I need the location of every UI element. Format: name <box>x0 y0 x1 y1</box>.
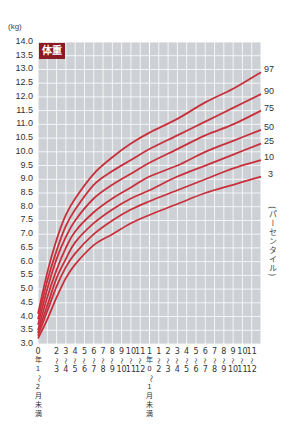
y-tick-label: 8.0 <box>5 201 33 211</box>
x-tick-label: 11〜12 <box>246 347 258 374</box>
y-tick-label: 3.0 <box>5 338 33 348</box>
y-tick-label: 13.0 <box>5 63 33 73</box>
percentile-label-75: 75 <box>264 103 274 113</box>
y-axis-unit: (kg) <box>8 22 22 31</box>
y-tick-label: 6.0 <box>5 256 33 266</box>
y-tick-label: 5.0 <box>5 283 33 293</box>
y-tick-label: 12.5 <box>5 77 33 87</box>
percentile-label-3: 3 <box>268 169 273 179</box>
y-tick-label: 8.5 <box>5 187 33 197</box>
y-tick-label: 11.5 <box>5 105 33 115</box>
percentile-label-97: 97 <box>264 64 274 74</box>
y-tick-label: 10.5 <box>5 132 33 142</box>
y-tick-label: 9.5 <box>5 160 33 170</box>
y-tick-label: 4.0 <box>5 311 33 321</box>
y-tick-label: 5.5 <box>5 269 33 279</box>
y-tick-label: 3.5 <box>5 324 33 334</box>
x-tick-label: 0年1〜2月未満 <box>32 347 44 419</box>
percentile-label-10: 10 <box>264 152 274 162</box>
y-tick-label: 14.0 <box>5 36 33 46</box>
y-tick-label: 7.0 <box>5 228 33 238</box>
y-tick-label: 10.0 <box>5 146 33 156</box>
chart-title-badge: 体重 <box>39 43 65 59</box>
y-tick-label: 4.5 <box>5 297 33 307</box>
percentile-label-50: 50 <box>264 122 274 132</box>
y-tick-label: 6.5 <box>5 242 33 252</box>
y-tick-label: 9.0 <box>5 173 33 183</box>
y-tick-label: 7.5 <box>5 214 33 224</box>
percentile-label-90: 90 <box>264 86 274 96</box>
percentile-axis-title: (パーセンタイル) <box>266 206 277 277</box>
y-tick-label: 12.0 <box>5 91 33 101</box>
percentile-label-25: 25 <box>264 136 274 146</box>
y-tick-label: 11.0 <box>5 118 33 128</box>
y-tick-label: 13.5 <box>5 50 33 60</box>
